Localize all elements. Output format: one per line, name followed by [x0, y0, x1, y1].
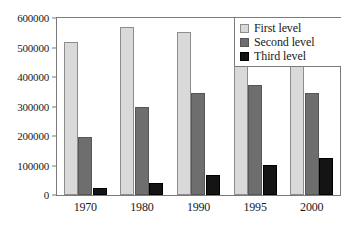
bar-1980-series-2 [149, 183, 163, 195]
bar-1970-series-2 [93, 188, 107, 195]
y-tick-label: 500000 [17, 42, 49, 53]
legend-swatch-icon [240, 24, 249, 33]
legend-item-1: Second level [240, 35, 337, 49]
x-axis-tick-labels: 19701980199019952000 [57, 200, 340, 220]
y-tick-label: 300000 [17, 101, 49, 112]
bar-group [57, 18, 114, 195]
bar-1980-series-1 [135, 107, 149, 196]
legend-item-2: Third level [240, 49, 337, 63]
bar-1995-series-0 [234, 52, 248, 195]
x-tick-label: 1995 [243, 200, 266, 214]
x-tick-label: 1970 [74, 200, 97, 214]
bar-1970-series-1 [78, 137, 92, 195]
legend-label: Second level [254, 36, 314, 49]
bar-1995-series-2 [263, 165, 277, 195]
legend-swatch-icon [240, 38, 249, 47]
bar-1995-series-1 [248, 85, 262, 195]
y-tick-label: 400000 [17, 72, 49, 83]
bar-group [170, 18, 227, 195]
legend-item-0: First level [240, 21, 337, 35]
y-tick-label: 100000 [17, 160, 49, 171]
bar-1990-series-0 [177, 32, 191, 195]
bar-chart: 0100000200000300000400000500000600000 19… [0, 0, 354, 230]
bar-1980-series-0 [120, 27, 134, 195]
legend-label: Third level [254, 50, 306, 63]
chart-legend: First levelSecond levelThird level [234, 18, 341, 67]
bar-1990-series-2 [206, 175, 220, 195]
x-tick-label: 1980 [130, 200, 153, 214]
y-tick-label: 0 [44, 190, 49, 201]
x-tick-label: 2000 [300, 200, 323, 214]
bar-1990-series-1 [191, 93, 205, 195]
y-tick-label: 200000 [17, 131, 49, 142]
bar-1970-series-0 [64, 42, 78, 195]
legend-swatch-icon [240, 52, 249, 61]
bar-2000-series-0 [290, 65, 304, 195]
y-axis-tick-labels: 0100000200000300000400000500000600000 [0, 17, 49, 196]
bar-2000-series-2 [319, 158, 333, 195]
legend-label: First level [254, 22, 301, 35]
bar-group [114, 18, 171, 195]
x-tick-label: 1990 [187, 200, 210, 214]
bar-2000-series-1 [305, 93, 319, 195]
y-tick-label: 600000 [17, 13, 49, 24]
